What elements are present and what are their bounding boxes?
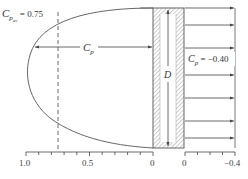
- left-axis-tick-2: 0.5: [82, 158, 94, 168]
- cp-avg-label: Cpav = 0.75: [2, 7, 43, 23]
- right-axis-tick-2: −0.4: [224, 158, 241, 168]
- left-axis-tick-3: 0: [150, 158, 155, 168]
- dimension-label: D: [163, 69, 172, 80]
- left-axis: [26, 152, 153, 156]
- right-axis-tick-1: 0: [182, 158, 187, 168]
- rear-pressure-arrows: [185, 8, 234, 138]
- pressure-distribution-diagram: Cpav = 0.75 Cp D Cp = −0.40 1.0 0.5 0 0 …: [0, 0, 248, 179]
- left-axis-tick-1: 1.0: [19, 158, 31, 168]
- right-axis: [185, 152, 235, 156]
- front-pressure-curve: [27, 8, 153, 148]
